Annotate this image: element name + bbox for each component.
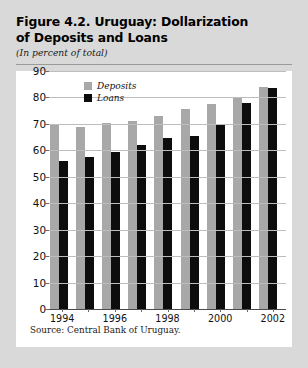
bar-group bbox=[50, 71, 76, 309]
figure-title-line-2: of Deposits and Loans bbox=[16, 30, 168, 45]
x-axis-tick-label: 1998 bbox=[155, 313, 179, 324]
title-block: Figure 4.2. Uruguay: Dollarization of De… bbox=[16, 14, 292, 65]
y-axis-tickmark bbox=[45, 283, 49, 284]
bar-loans-1995 bbox=[85, 157, 94, 309]
bar-group bbox=[259, 71, 285, 309]
chart-panel: 0102030405060708090 Deposits Loans 19941… bbox=[16, 71, 292, 347]
y-axis-tickmark bbox=[45, 230, 49, 231]
gridline bbox=[49, 124, 286, 125]
y-axis-tick-label: 30 bbox=[24, 224, 46, 236]
y-axis-tickmark bbox=[45, 256, 49, 257]
bar-group bbox=[233, 71, 259, 309]
bar-deposits-2000 bbox=[207, 104, 216, 309]
x-axis-tick-label: 2002 bbox=[261, 313, 285, 324]
title-divider bbox=[16, 64, 292, 65]
legend-swatch-deposits-icon bbox=[84, 82, 92, 90]
y-axis-tickmark bbox=[45, 150, 49, 151]
x-axis-tickmark bbox=[141, 309, 142, 312]
x-axis-tickmark bbox=[273, 309, 274, 312]
y-axis-tickmark bbox=[45, 124, 49, 125]
x-axis-tick-label: 1996 bbox=[103, 313, 127, 324]
gridline bbox=[49, 71, 286, 72]
gridline bbox=[49, 203, 286, 204]
gridline bbox=[49, 256, 286, 257]
bars-layer bbox=[49, 71, 286, 309]
y-axis: 0102030405060708090 bbox=[20, 71, 46, 309]
y-axis-tick-label: 80 bbox=[24, 91, 46, 103]
figure-title: Figure 4.2. Uruguay: Dollarization of De… bbox=[16, 14, 292, 45]
y-axis-tick-label: 70 bbox=[24, 118, 46, 130]
bar-group bbox=[207, 71, 233, 309]
legend-label-loans: Loans bbox=[97, 93, 124, 103]
source-note: Source: Central Bank of Uruguay. bbox=[30, 325, 181, 335]
y-axis-tick-label: 20 bbox=[24, 250, 46, 262]
gridline bbox=[49, 283, 286, 284]
x-axis-tick-label: 2000 bbox=[208, 313, 232, 324]
legend-swatch-loans-icon bbox=[84, 94, 92, 102]
bar-deposits-1998 bbox=[154, 116, 163, 309]
figure-container: Figure 4.2. Uruguay: Dollarization of De… bbox=[0, 0, 308, 368]
x-axis-tickmark bbox=[168, 309, 169, 312]
y-axis-tick-label: 50 bbox=[24, 171, 46, 183]
legend-item-loans: Loans bbox=[84, 93, 136, 103]
figure-title-line-1: Figure 4.2. Uruguay: Dollarization bbox=[16, 14, 248, 29]
figure-subtitle: (In percent of total) bbox=[16, 47, 292, 59]
x-axis-tickmark bbox=[194, 309, 195, 312]
bar-loans-2002 bbox=[268, 88, 277, 309]
y-axis-tick-label: 60 bbox=[24, 144, 46, 156]
gridline bbox=[49, 177, 286, 178]
x-axis-tickmark bbox=[88, 309, 89, 312]
gridline bbox=[49, 150, 286, 151]
x-axis-tickmark bbox=[247, 309, 248, 312]
bar-loans-2001 bbox=[242, 103, 251, 309]
bar-group bbox=[102, 71, 128, 309]
y-axis-tick-label: 90 bbox=[24, 65, 46, 77]
bar-group bbox=[181, 71, 207, 309]
bar-loans-2000 bbox=[216, 125, 225, 309]
y-axis-tickmark bbox=[45, 177, 49, 178]
plot-wrapper: 0102030405060708090 Deposits Loans bbox=[16, 71, 292, 309]
x-axis-tickmark bbox=[115, 309, 116, 312]
bar-deposits-2002 bbox=[259, 87, 268, 309]
y-axis-tick-label: 40 bbox=[24, 197, 46, 209]
x-axis-tickmark bbox=[62, 309, 63, 312]
y-axis-tickmark bbox=[45, 203, 49, 204]
y-axis-tick-label: 0 bbox=[24, 303, 46, 315]
y-axis-tickmark bbox=[45, 71, 49, 72]
legend-item-deposits: Deposits bbox=[84, 81, 136, 91]
gridline bbox=[49, 230, 286, 231]
x-axis-tick-label: 1994 bbox=[50, 313, 74, 324]
legend-label-deposits: Deposits bbox=[97, 81, 136, 91]
y-axis-tick-label: 10 bbox=[24, 277, 46, 289]
bar-group bbox=[76, 71, 102, 309]
plot-area bbox=[49, 71, 286, 309]
chart-legend: Deposits Loans bbox=[84, 81, 136, 103]
bar-deposits-1999 bbox=[181, 109, 190, 309]
bar-deposits-1994 bbox=[50, 124, 59, 309]
y-axis-tickmark bbox=[45, 97, 49, 98]
bar-loans-1994 bbox=[59, 161, 68, 309]
bar-group bbox=[154, 71, 180, 309]
bar-group bbox=[128, 71, 154, 309]
bar-loans-1997 bbox=[137, 145, 146, 309]
x-axis-tickmark bbox=[220, 309, 221, 312]
